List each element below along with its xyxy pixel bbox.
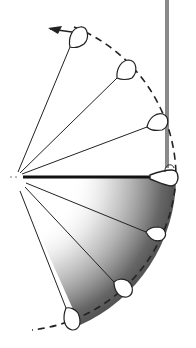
vertical-post	[165, 0, 169, 168]
arm-position-upper-3	[22, 114, 168, 174]
swept-area-shading	[14, 177, 176, 325]
sweep-diagram	[0, 0, 196, 348]
pivot-point	[10, 176, 17, 178]
arm-position-upper-1	[18, 27, 87, 172]
diagram-canvas	[0, 0, 196, 348]
arm-position-upper-2	[20, 60, 136, 173]
